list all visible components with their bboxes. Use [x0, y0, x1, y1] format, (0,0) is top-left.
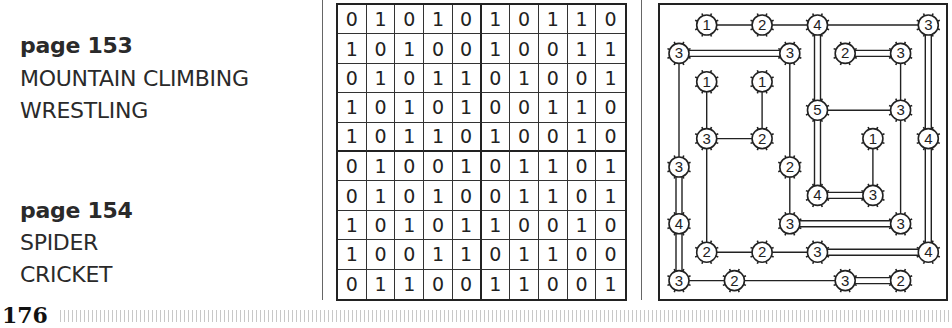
grid-cell: 1: [510, 270, 539, 299]
island-value: 4: [924, 243, 932, 260]
island-value: 3: [896, 215, 904, 232]
grid-cell: 1: [338, 34, 367, 63]
grid-cell: 1: [338, 123, 367, 152]
grid-cell: 1: [510, 152, 539, 181]
grid-cell: 1: [424, 123, 453, 152]
island-value: 3: [675, 272, 683, 289]
grid-cell: 0: [596, 240, 625, 269]
grid-cell: 1: [453, 240, 482, 269]
island-node: 3: [834, 269, 857, 292]
grid-cell: 1: [482, 123, 511, 152]
grid-cell: 0: [596, 93, 625, 122]
grid-cell: 0: [367, 93, 396, 122]
grid-cell: 1: [482, 5, 511, 34]
grid-cell: 0: [568, 270, 597, 299]
grid-cell: 0: [568, 152, 597, 181]
grid-cell: 1: [539, 152, 568, 181]
grid-cell: 0: [539, 34, 568, 63]
island-node: 1: [751, 70, 774, 93]
island-node: 2: [751, 13, 774, 36]
island-value: 3: [869, 186, 877, 203]
island-value: 2: [786, 158, 794, 175]
grid-cell: 0: [539, 270, 568, 299]
grid-cell: 1: [510, 64, 539, 93]
island-node: 3: [889, 42, 912, 65]
grid-cell: 1: [482, 270, 511, 299]
island-node: 4: [806, 184, 829, 207]
grid-cell: 0: [338, 64, 367, 93]
island-node: 3: [778, 42, 801, 65]
grid-cell: 1: [367, 270, 396, 299]
island-node: 3: [667, 42, 690, 65]
island-node: 3: [917, 13, 940, 36]
grid-cell: 0: [395, 64, 424, 93]
grid-cell: 0: [395, 5, 424, 34]
island-value: 3: [896, 44, 904, 61]
page-footer: 176: [0, 301, 952, 328]
grid-cell: 0: [539, 123, 568, 152]
grid-cell: 1: [453, 64, 482, 93]
grid-cell: 1: [596, 270, 625, 299]
column-divider: [322, 0, 323, 300]
grid-cell: 0: [596, 123, 625, 152]
grid-cell: 0: [424, 270, 453, 299]
island-value: 3: [896, 101, 904, 118]
island-value: 3: [813, 243, 821, 260]
island-node: 1: [861, 127, 884, 150]
grid-cell: 1: [482, 211, 511, 240]
island-value: 2: [730, 272, 738, 289]
island-node: 4: [917, 241, 940, 264]
island-value: 4: [813, 186, 821, 203]
grid-cell: 1: [367, 152, 396, 181]
island-node: 2: [889, 269, 912, 292]
island-node: 2: [751, 241, 774, 264]
grid-cell: 1: [453, 152, 482, 181]
page-number: 176: [2, 302, 48, 328]
grid-cell: 1: [539, 240, 568, 269]
island-node: 2: [751, 127, 774, 150]
grid-cell: 1: [568, 211, 597, 240]
grid-cell: 0: [596, 211, 625, 240]
island-value: 5: [813, 101, 821, 118]
island-node: 4: [806, 13, 829, 36]
island-node: 3: [889, 212, 912, 235]
island-value: 1: [758, 73, 766, 90]
island-value: 1: [703, 16, 711, 33]
island-value: 3: [841, 272, 849, 289]
island-node: 4: [667, 212, 690, 235]
grid-cell: 0: [453, 34, 482, 63]
grid-cell: 1: [424, 181, 453, 210]
decorative-hatch-bar: [60, 310, 952, 322]
answer-word: SPIDER: [20, 230, 98, 255]
grid-cell: 1: [539, 93, 568, 122]
island-node: 1: [695, 70, 718, 93]
grid-cell: 0: [367, 123, 396, 152]
island-node: 4: [917, 127, 940, 150]
island-node: 3: [806, 241, 829, 264]
answer-page-label: page 153: [20, 33, 132, 58]
grid-cell: 0: [338, 5, 367, 34]
grid-cell: 0: [539, 64, 568, 93]
island-node: 1: [695, 13, 718, 36]
island-value: 1: [869, 130, 877, 147]
grid-cell: 1: [395, 270, 424, 299]
island-value: 4: [924, 130, 932, 147]
answer-word: WRESTLING: [20, 98, 148, 123]
grid-cell: 0: [510, 93, 539, 122]
grid-cell: 0: [510, 123, 539, 152]
island-value: 3: [703, 130, 711, 147]
island-value: 3: [924, 16, 932, 33]
grid-cell: 1: [596, 64, 625, 93]
grid-cell: 1: [596, 181, 625, 210]
grid-cell: 1: [395, 93, 424, 122]
grid-cell: 1: [424, 64, 453, 93]
island-node: 3: [695, 127, 718, 150]
grid-cell: 0: [482, 181, 511, 210]
grid-cell: 1: [338, 240, 367, 269]
grid-cell: 0: [453, 270, 482, 299]
grid-cell: 1: [510, 181, 539, 210]
island-node: 2: [778, 155, 801, 178]
grid-cell: 0: [453, 123, 482, 152]
grid-cell: 0: [596, 5, 625, 34]
island-value: 2: [841, 44, 849, 61]
